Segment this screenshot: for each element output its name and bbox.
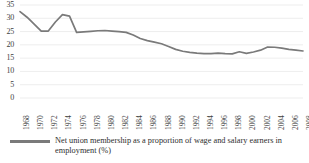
plot-area: 05101520253035: [0, 0, 309, 100]
gridlines: [20, 5, 303, 98]
x-tick-1984: 1984: [136, 115, 144, 130]
y-tick-5: 5: [0, 81, 14, 89]
x-tick-1974: 1974: [65, 115, 73, 130]
line-chart-svg: [0, 0, 309, 100]
chart-figure: 05101520253035 1968197019721974197619781…: [0, 0, 309, 163]
x-tick-1986: 1986: [150, 115, 158, 130]
y-tick-30: 30: [0, 14, 14, 22]
legend-label: Net union membership as a proportion of …: [55, 136, 300, 156]
x-tick-2002: 2002: [264, 115, 272, 130]
x-tick-2000: 2000: [249, 115, 257, 130]
x-tick-1970: 1970: [37, 115, 45, 130]
y-tick-10: 10: [0, 67, 14, 75]
y-tick-25: 25: [0, 28, 14, 36]
x-tick-2006: 2006: [292, 115, 300, 130]
y-tick-15: 15: [0, 54, 14, 62]
x-tick-1994: 1994: [207, 115, 215, 130]
x-tick-1976: 1976: [80, 115, 88, 130]
x-tick-2004: 2004: [278, 115, 286, 130]
x-axis-tick-labels: 1968197019721974197619781980198219841986…: [0, 98, 309, 133]
legend-line-swatch: [10, 140, 50, 143]
x-tick-1978: 1978: [94, 115, 102, 130]
y-tick-20: 20: [0, 41, 14, 49]
x-tick-1988: 1988: [165, 115, 173, 130]
x-tick-1998: 1998: [235, 115, 243, 130]
y-tick-35: 35: [0, 1, 14, 9]
x-tick-1996: 1996: [221, 115, 229, 130]
x-tick-1980: 1980: [108, 115, 116, 130]
x-tick-1990: 1990: [179, 115, 187, 130]
x-tick-2008: 2008: [306, 115, 309, 130]
x-tick-1992: 1992: [193, 115, 201, 130]
chart-legend: Net union membership as a proportion of …: [0, 136, 309, 156]
x-tick-1968: 1968: [23, 115, 31, 130]
x-tick-1972: 1972: [51, 115, 59, 130]
x-tick-1982: 1982: [122, 115, 130, 130]
